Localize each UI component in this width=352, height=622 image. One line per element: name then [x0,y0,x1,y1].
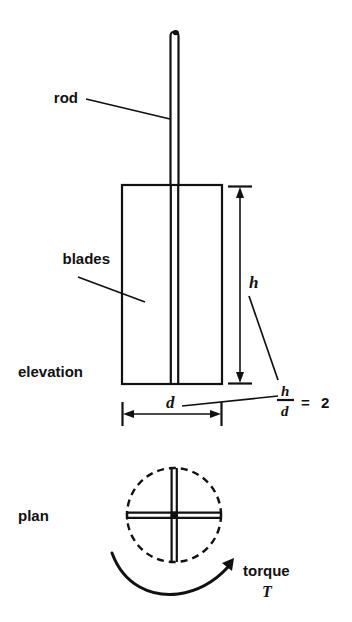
diameter-arrowhead-right [210,410,221,418]
diameter-symbol-label: d [166,393,175,412]
torque-symbol-label: T [262,583,273,600]
torque-arc-path [112,553,228,594]
height-arrowhead-down [236,372,244,383]
plan-blade-hub [171,512,178,519]
diameter-dimension: d [123,393,222,426]
rod-top-cap [173,30,179,35]
ratio-value: 2 [321,394,329,411]
torque-label: torque [243,562,290,579]
ratio-leader-from-height [249,296,278,380]
rod-right-line [171,32,179,187]
rod-shape [171,30,179,384]
blades-rectangle [122,185,222,384]
height-dimension: h [228,187,258,384]
ratio-denominator: d [281,403,289,419]
ratio-leader-from-diameter [182,396,278,406]
torque-arrow [112,553,234,594]
diameter-arrowhead-left [123,410,134,418]
blades-label: blades [62,250,110,267]
ratio-equals-sign: = [301,394,310,411]
rod-label: rod [54,89,78,106]
elevation-view-label: elevation [18,363,83,380]
ratio-numerator: h [281,383,289,399]
plan-view-label: plan [18,507,49,524]
height-symbol-label: h [249,273,258,292]
blades-leader-line [78,277,145,302]
diagram-canvas: rod blades elevation h [0,0,352,622]
ratio-annotation: h d = 2 [182,296,329,419]
rod-leader-line [86,99,170,119]
figure-root: rod blades elevation h [0,0,352,622]
height-arrowhead-up [236,187,244,198]
